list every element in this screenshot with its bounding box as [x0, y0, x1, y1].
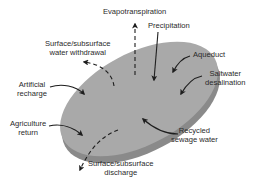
label-evapotranspiration: Evapotranspiration: [103, 8, 166, 17]
label-agriculture-return: Agriculture return: [10, 120, 46, 137]
label-discharge: Surface/subsurface discharge: [88, 160, 153, 177]
label-artificial-recharge: Artificial recharge: [17, 81, 47, 98]
label-recycled-sewage: Recycled sewage water: [171, 127, 218, 144]
label-desalination: Saltwater desalination: [205, 70, 246, 87]
water-balance-diagram: Evapotranspiration Precipitation Surface…: [0, 0, 257, 185]
label-precipitation: Precipitation: [148, 22, 190, 31]
label-aqueduct: Aqueduct: [193, 51, 225, 60]
label-withdrawal: Surface/subsurface water withdrawal: [45, 40, 110, 57]
